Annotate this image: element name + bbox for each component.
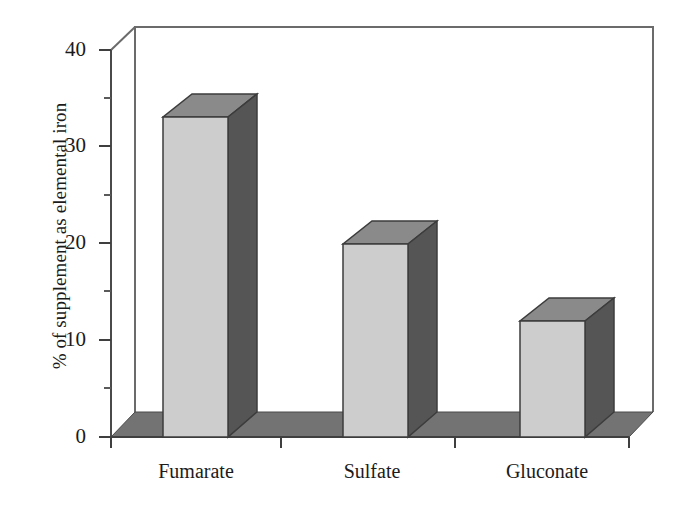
bar-side-face (585, 298, 614, 437)
bar-gluconate (520, 298, 614, 437)
bar-front-face (163, 117, 228, 437)
y-tick-label-30: 30 (42, 135, 86, 156)
bar-fumarate (163, 94, 257, 437)
plot-canvas (0, 0, 685, 507)
depth-edge-top-left (111, 27, 135, 50)
y-tick-label-40: 40 (42, 39, 86, 60)
x-tick-label-fumarate: Fumarate (96, 461, 296, 481)
x-tick-label-gluconate: Gluconate (447, 461, 647, 481)
y-tick-label-20: 20 (42, 232, 86, 253)
bar-chart: % of supplement as elemental iron 40 30 … (0, 0, 685, 507)
bar-side-face (228, 94, 257, 437)
bar-sulfate (343, 221, 437, 437)
x-axis-ticks (111, 437, 629, 448)
x-tick-label-sulfate: Sulfate (272, 461, 472, 481)
bar-side-face (408, 221, 437, 437)
y-tick-label-0: 0 (42, 426, 86, 447)
y-tick-label-10: 10 (42, 329, 86, 350)
bar-front-face (343, 244, 408, 437)
bar-front-face (520, 321, 585, 437)
y-axis-major-ticks (99, 50, 111, 437)
